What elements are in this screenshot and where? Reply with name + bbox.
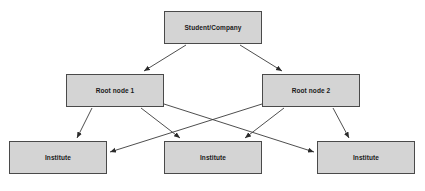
edge-root2-to-inst2 [245,108,284,138]
node-institute-3-label: Institute [353,154,379,161]
node-institute-2-label: Institute [200,154,226,161]
edge-root2-to-inst3 [333,108,349,138]
node-institute-1-label: Institute [45,154,71,161]
node-student-company-label: Student/Company [184,24,241,31]
node-root-node-1[interactable]: Root node 1 [66,74,164,107]
edge-root1-to-inst2 [141,108,180,138]
node-institute-2[interactable]: Institute [164,141,262,174]
edge-root1-to-inst1 [77,108,92,138]
node-institute-1[interactable]: Institute [9,141,107,174]
edge-student-to-root2 [240,45,282,71]
node-institute-3[interactable]: Institute [317,141,415,174]
node-root-node-2-label: Root node 2 [292,87,331,94]
node-root-node-2[interactable]: Root node 2 [262,74,360,107]
node-student-company[interactable]: Student/Company [164,11,262,44]
edge-student-to-root1 [144,45,186,71]
diagram-canvas: Student/Company Root node 1 Root node 2 … [0,0,425,191]
node-root-node-1-label: Root node 1 [96,87,135,94]
